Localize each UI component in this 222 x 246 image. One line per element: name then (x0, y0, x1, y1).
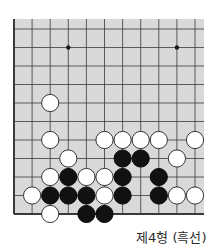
white-stone[interactable] (150, 131, 167, 148)
white-stone[interactable] (186, 187, 203, 204)
star-point (66, 45, 70, 49)
black-stone[interactable] (132, 150, 149, 167)
white-stone[interactable] (168, 187, 185, 204)
black-stone[interactable] (60, 168, 77, 185)
white-stone[interactable] (96, 187, 113, 204)
black-stone[interactable] (78, 187, 95, 204)
black-stone[interactable] (114, 168, 131, 185)
star-point (175, 45, 179, 49)
white-stone[interactable] (42, 205, 59, 222)
white-stone[interactable] (132, 131, 149, 148)
problem-caption: 제4형 (흑선) (136, 227, 207, 246)
black-stone[interactable] (96, 205, 113, 222)
white-stone[interactable] (60, 150, 77, 167)
white-stone[interactable] (96, 168, 113, 185)
go-board[interactable] (0, 0, 222, 246)
white-stone[interactable] (168, 150, 185, 167)
white-stone[interactable] (42, 168, 59, 185)
white-stone[interactable] (42, 94, 59, 111)
white-stone[interactable] (96, 131, 113, 148)
white-stone[interactable] (42, 131, 59, 148)
white-stone[interactable] (78, 168, 95, 185)
black-stone[interactable] (114, 187, 131, 204)
white-stone[interactable] (114, 131, 131, 148)
black-stone[interactable] (42, 187, 59, 204)
black-stone[interactable] (114, 150, 131, 167)
black-stone[interactable] (78, 205, 95, 222)
black-stone[interactable] (150, 187, 167, 204)
black-stone[interactable] (60, 187, 77, 204)
black-stone[interactable] (150, 168, 167, 185)
white-stone[interactable] (186, 131, 203, 148)
white-stone[interactable] (23, 187, 40, 204)
